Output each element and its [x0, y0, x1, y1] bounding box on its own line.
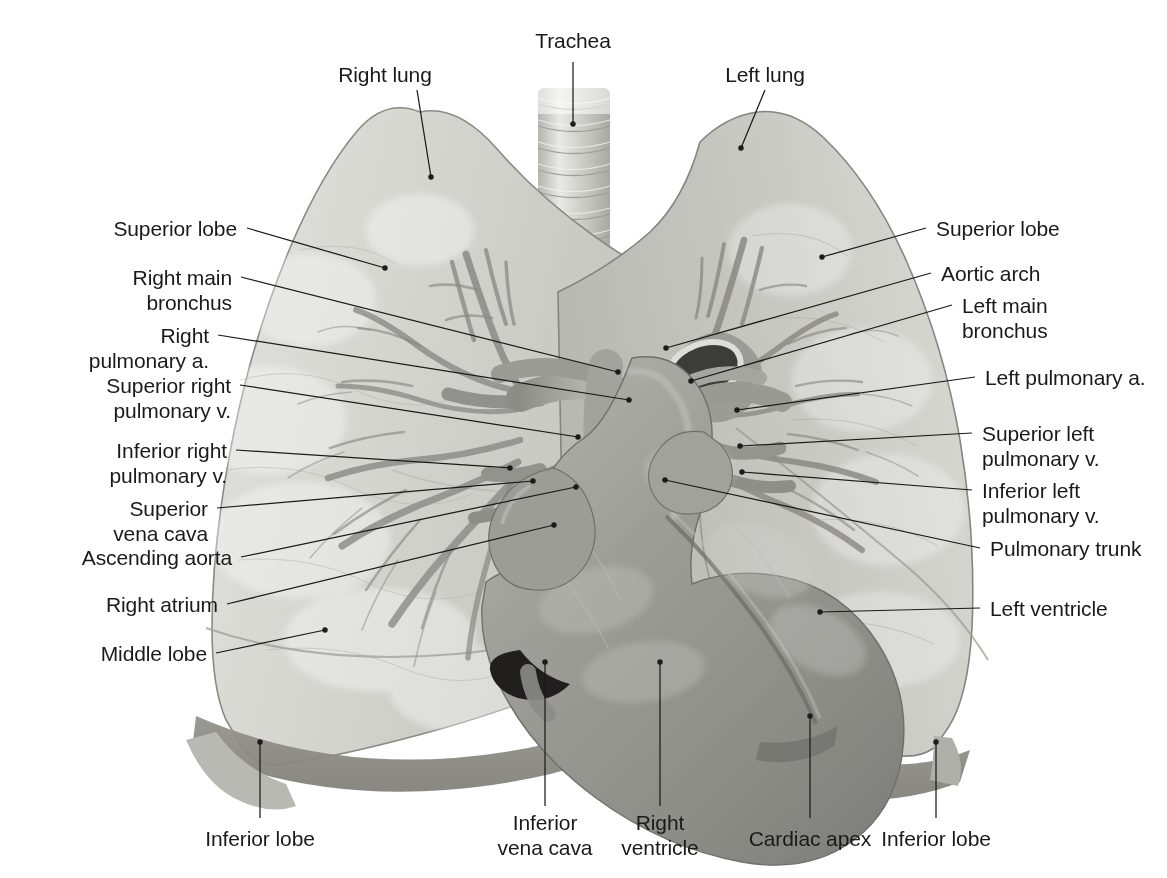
label-pulmonary-trunk: Pulmonary trunk: [990, 536, 1141, 561]
label-right-pulmonary-artery: Right pulmonary a.: [89, 323, 209, 373]
label-superior-right-pulmonary-vein: Superior right pulmonary v.: [106, 373, 231, 423]
label-left-pulmonary-artery: Left pulmonary a.: [985, 365, 1146, 390]
label-cardiac-apex: Cardiac apex: [749, 826, 872, 851]
artist-signature: ツ: [872, 762, 881, 772]
label-right-main-bronchus: Right main bronchus: [133, 265, 232, 315]
label-left-lung: Left lung: [725, 62, 805, 87]
label-superior-vena-cava: Superior vena cava: [113, 496, 208, 546]
label-right-ventricle: Right ventricle: [621, 810, 698, 860]
label-inferior-lobe-left: Inferior lobe: [881, 826, 991, 851]
anatomy-figure: ツ: [0, 0, 1167, 878]
label-right-atrium: Right atrium: [106, 592, 218, 617]
label-inferior-vena-cava: Inferior vena cava: [498, 810, 593, 860]
label-superior-lobe-right: Superior lobe: [113, 216, 237, 241]
label-middle-lobe: Middle lobe: [101, 641, 207, 666]
label-inferior-left-pulmonary-vein: Inferior left pulmonary v.: [982, 478, 1099, 528]
label-inferior-lobe-right: Inferior lobe: [205, 826, 315, 851]
label-right-lung: Right lung: [338, 62, 432, 87]
label-inferior-right-pulmonary-vein: Inferior right pulmonary v.: [110, 438, 227, 488]
label-superior-lobe-left: Superior lobe: [936, 216, 1060, 241]
label-aortic-arch: Aortic arch: [941, 261, 1040, 286]
label-trachea: Trachea: [535, 28, 611, 53]
label-ascending-aorta: Ascending aorta: [82, 545, 232, 570]
label-left-main-bronchus: Left main bronchus: [962, 293, 1048, 343]
label-superior-left-pulmonary-vein: Superior left pulmonary v.: [982, 421, 1099, 471]
label-left-ventricle: Left ventricle: [990, 596, 1108, 621]
